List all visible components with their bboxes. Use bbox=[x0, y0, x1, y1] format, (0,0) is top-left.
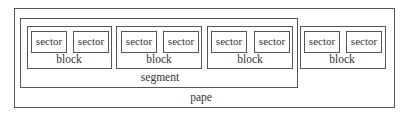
block-1-label: block bbox=[49, 53, 89, 65]
sector-2-1: sector bbox=[121, 31, 157, 53]
sector-3-1: sector bbox=[211, 31, 247, 53]
sector-4-1: sector bbox=[304, 31, 340, 53]
block-4-label: block bbox=[322, 53, 362, 65]
sector-3-2: sector bbox=[254, 31, 290, 53]
segment-label: segment bbox=[135, 71, 185, 83]
sector-2-2: sector bbox=[163, 31, 199, 53]
sector-1-2: sector bbox=[73, 31, 109, 53]
pape-label: pape bbox=[181, 91, 221, 103]
block-3-label: block bbox=[230, 53, 270, 65]
sector-4-2: sector bbox=[346, 31, 382, 53]
sector-1-1: sector bbox=[31, 31, 67, 53]
block-2-label: block bbox=[139, 53, 179, 65]
